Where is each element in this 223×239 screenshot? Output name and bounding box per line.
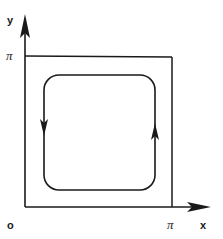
y-tick-pi-label: π bbox=[6, 48, 13, 63]
phase-diagram: y π o π x bbox=[0, 0, 223, 239]
x-axis bbox=[25, 202, 211, 212]
y-axis-label: y bbox=[7, 14, 14, 26]
closed-orbit bbox=[44, 75, 155, 190]
origin-label: o bbox=[7, 219, 14, 231]
y-axis bbox=[20, 14, 30, 207]
x-tick-pi-label: π bbox=[167, 217, 174, 232]
x-axis-label: x bbox=[200, 219, 207, 231]
